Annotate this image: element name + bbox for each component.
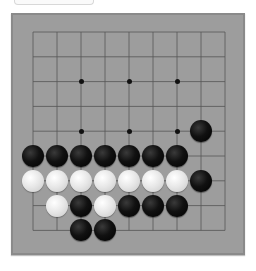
white-stone[interactable] — [46, 195, 68, 217]
black-stone[interactable] — [166, 195, 188, 217]
black-stone[interactable] — [70, 145, 92, 167]
white-stone[interactable] — [166, 170, 188, 192]
white-stone[interactable] — [22, 170, 44, 192]
white-stone[interactable] — [94, 170, 116, 192]
black-stone[interactable] — [94, 145, 116, 167]
white-stone[interactable] — [142, 170, 164, 192]
white-stone[interactable] — [94, 195, 116, 217]
black-stone[interactable] — [22, 145, 44, 167]
black-stone[interactable] — [118, 195, 140, 217]
black-stone[interactable] — [118, 145, 140, 167]
star-point — [127, 79, 132, 84]
top-tab — [14, 0, 94, 5]
black-stone[interactable] — [142, 195, 164, 217]
black-stone[interactable] — [70, 195, 92, 217]
white-stone[interactable] — [118, 170, 140, 192]
black-stone[interactable] — [190, 170, 212, 192]
black-stone[interactable] — [46, 145, 68, 167]
star-point — [79, 129, 84, 134]
black-stone[interactable] — [142, 145, 164, 167]
star-point — [175, 129, 180, 134]
black-stone[interactable] — [166, 145, 188, 167]
white-stone[interactable] — [46, 170, 68, 192]
star-point — [79, 79, 84, 84]
white-stone[interactable] — [70, 170, 92, 192]
star-point — [175, 79, 180, 84]
star-point — [127, 129, 132, 134]
